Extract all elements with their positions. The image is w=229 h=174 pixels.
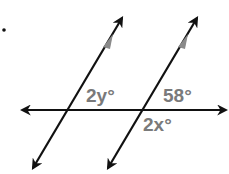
angle-label-58: 58° [163,85,192,106]
parallel-lines-diagram: 2y° 58° 2x° [0,0,229,174]
parallel-marker-icon [103,34,113,49]
angle-label-2x: 2x° [143,114,172,135]
parallel-marker-icon [178,34,188,49]
bullet-dot [2,28,6,32]
angle-label-2y: 2y° [86,85,115,106]
